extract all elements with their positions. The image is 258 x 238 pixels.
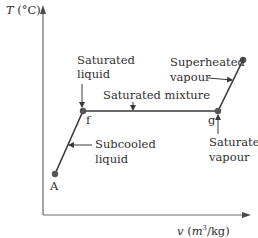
tv-diagram: T (°C) v (m3/kg) A f g Saturated liquid … bbox=[0, 0, 258, 238]
x-axis bbox=[43, 212, 251, 218]
annotation-saturated-mixture: Saturated mixture bbox=[103, 88, 210, 110]
svg-text:Saturated: Saturated bbox=[77, 53, 136, 67]
point-a bbox=[52, 171, 58, 177]
point-g-label: g bbox=[208, 113, 216, 127]
y-axis-arrow-icon bbox=[40, 5, 46, 14]
svg-text:Superheated: Superheated bbox=[170, 55, 245, 69]
point-a-label: A bbox=[49, 179, 59, 193]
x-axis-label: v (m3/kg) bbox=[177, 224, 230, 238]
svg-text:liquid: liquid bbox=[77, 67, 111, 81]
svg-text:Saturated mixture: Saturated mixture bbox=[103, 88, 210, 102]
point-g bbox=[215, 108, 221, 114]
y-axis-label: T (°C) bbox=[6, 3, 41, 17]
svg-text:vapour: vapour bbox=[169, 70, 211, 84]
svg-text:Subcooled: Subcooled bbox=[95, 137, 156, 151]
y-axis bbox=[40, 5, 46, 215]
annotation-subcooled-liquid: Subcooled liquid bbox=[69, 137, 156, 166]
x-axis-arrow-icon bbox=[242, 212, 251, 218]
svg-text:Saturated: Saturated bbox=[209, 135, 258, 149]
superheated-vapour-arrow-icon bbox=[208, 78, 232, 80]
svg-text:vapour: vapour bbox=[208, 150, 250, 164]
point-f-label: f bbox=[86, 113, 91, 127]
annotation-saturated-vapour: Saturated vapour bbox=[208, 115, 258, 164]
svg-text:liquid: liquid bbox=[95, 152, 129, 166]
